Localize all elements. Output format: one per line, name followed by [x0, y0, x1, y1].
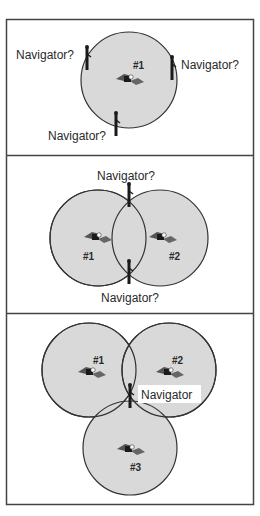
navigator-question-label: Navigator? — [48, 129, 106, 143]
panel-one-satellite: #1 Navigator? Navigator? Navigator? — [16, 32, 239, 143]
navigator-question-label: Navigator? — [16, 48, 74, 62]
satellite-label: #3 — [130, 462, 142, 473]
satellite-label: #1 — [83, 251, 95, 262]
panel-three-satellites: #1 #2 #3 Navigator — [42, 323, 216, 495]
trilateration-diagram: #1 Navigator? Navigator? Navigator? #1 #… — [0, 0, 260, 516]
satellite-label: #2 — [169, 251, 181, 262]
panel-two-satellites: #1 #2 Navigator? Navigator? — [50, 169, 208, 305]
navigator-question-label: Navigator? — [181, 58, 239, 72]
satellite-label: #1 — [133, 60, 145, 71]
navigator-question-label: Navigator? — [101, 291, 159, 305]
navigator-label: Navigator — [141, 388, 192, 402]
satellite-label: #1 — [93, 355, 105, 366]
satellite-label: #2 — [172, 355, 184, 366]
navigator-question-label: Navigator? — [97, 169, 155, 183]
